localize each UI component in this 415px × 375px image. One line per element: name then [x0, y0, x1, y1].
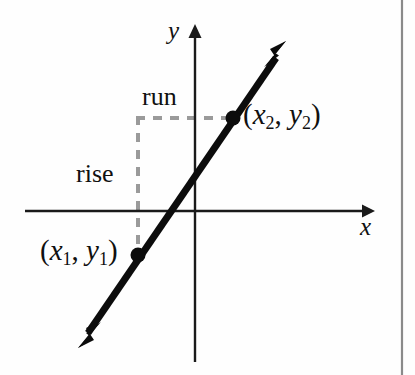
y-axis-label: y [168, 18, 179, 43]
point-2-x-var: x [253, 98, 266, 130]
point-2-x-subscript: 2 [266, 113, 275, 133]
y-axis-arrowhead [189, 24, 202, 38]
point-2-label: (x2, y2) [243, 100, 321, 132]
diagram-canvas [0, 0, 415, 375]
slope-diagram-figure: y x run rise (x1, y1) (x2, y2) [0, 0, 415, 375]
point-1-x-var: x [50, 234, 63, 266]
point-1-y-var: y [86, 234, 99, 266]
point-marker-1 [131, 248, 146, 263]
slope-line [78, 41, 286, 348]
slope-line-arrowhead-down-tip [78, 322, 99, 348]
point-1-y-subscript: 1 [99, 249, 108, 269]
point-1-comma: , [72, 234, 87, 266]
x-axis-label: x [360, 214, 371, 239]
point-1-label: (x1, y1) [40, 236, 118, 268]
run-label: run [142, 84, 177, 110]
point-1-x-subscript: 1 [63, 249, 72, 269]
point-2-close-paren: ) [311, 98, 321, 130]
point-1-open-paren: ( [40, 234, 50, 266]
point-marker-2 [226, 111, 241, 126]
point-2-comma: , [275, 98, 290, 130]
point-2-open-paren: ( [243, 98, 253, 130]
point-1-close-paren: ) [108, 234, 118, 266]
x-axis [25, 205, 375, 218]
y-axis [189, 24, 202, 362]
rise-label: rise [76, 161, 114, 187]
point-2-y-subscript: 2 [302, 113, 311, 133]
point-2-y-var: y [289, 98, 302, 130]
